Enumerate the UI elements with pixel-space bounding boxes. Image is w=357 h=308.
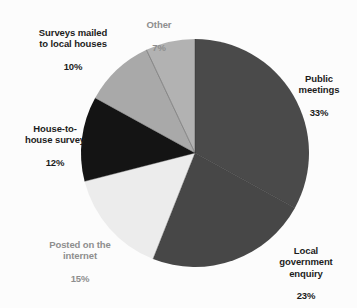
pie-label-name: House-to- house survey (6, 123, 104, 145)
pie-label-value: 23% (258, 290, 354, 301)
pie-chart: Surveys mailed to local houses 10% Other… (0, 0, 357, 308)
pie-label-name: Posted on the internet (26, 239, 134, 261)
pie-label-posted-on-the-internet: Posted on the internet 15% (26, 228, 134, 295)
pie-label-name: Other (128, 19, 190, 30)
pie-label-name: Public meetings (283, 73, 355, 95)
pie-label-other: Other 7% (128, 8, 190, 64)
pie-label-surveys-mailed-to-local-houses: Surveys mailed to local houses 10% (14, 16, 132, 83)
pie-label-value: 10% (14, 61, 132, 72)
pie-label-value: 15% (26, 273, 134, 284)
pie-label-name: Surveys mailed to local houses (14, 27, 132, 49)
pie-label-value: 12% (6, 157, 104, 168)
pie-label-local-government-enquiry: Local government enquiry 23% (258, 234, 354, 308)
pie-label-name: Local government enquiry (258, 245, 354, 279)
pie-label-public-meetings: Public meetings 33% (283, 62, 355, 129)
pie-label-value: 7% (128, 42, 190, 53)
pie-label-house-to-house-survey: House-to- house survey 12% (6, 112, 104, 179)
pie-label-value: 33% (283, 107, 355, 118)
